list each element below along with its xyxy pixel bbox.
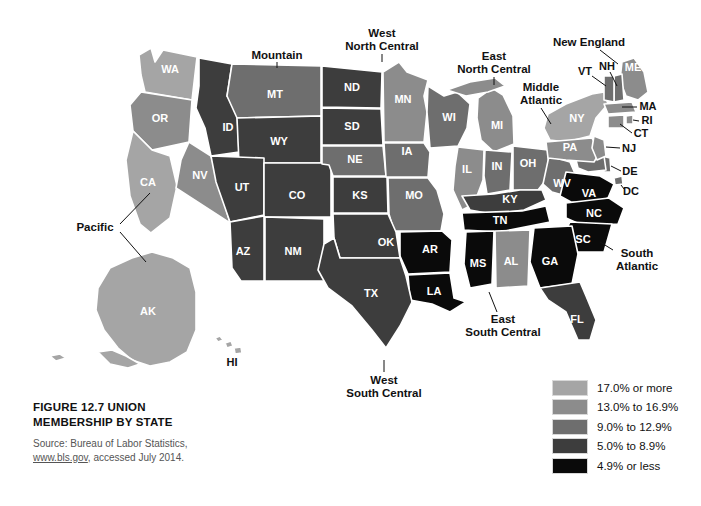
state-KS[interactable] <box>333 177 388 213</box>
state-HI-2 <box>225 341 233 348</box>
state-PA[interactable] <box>546 138 600 162</box>
region-label-midatl-line1: Middle <box>523 81 559 93</box>
state-MO[interactable] <box>388 178 444 231</box>
legend-swatch-3 <box>552 438 588 454</box>
region-label-enc-line1: East <box>482 50 506 62</box>
state-HI-3 <box>234 347 242 354</box>
state-LA[interactable] <box>408 273 466 312</box>
legend-label-4: 4.9% or less <box>597 460 660 472</box>
state-IA[interactable] <box>384 143 430 177</box>
legend-label-2: 9.0% to 12.9% <box>597 421 672 433</box>
legend-row-0[interactable]: 17.0% or more <box>552 378 694 398</box>
state-label-HI: HI <box>227 356 238 368</box>
region-label-esc-line2: South Central <box>465 326 540 338</box>
state-ND[interactable] <box>322 66 382 108</box>
state-WA[interactable] <box>139 48 197 100</box>
map-legend: 17.0% or more 13.0% to 16.9% 9.0% to 12.… <box>552 378 694 476</box>
region-label-wsc-line2: South Central <box>346 387 421 399</box>
figure-title-line2: MEMBERSHIP BY STATE <box>33 415 268 430</box>
state-DC[interactable] <box>614 176 623 185</box>
state-label-MA: MA <box>639 100 656 112</box>
source-url-link[interactable]: www.bls.gov <box>33 452 88 463</box>
state-AK-islands <box>50 354 66 361</box>
state-GA[interactable] <box>530 226 578 288</box>
region-label-esc-line1: East <box>491 313 515 325</box>
state-AL[interactable] <box>495 230 530 288</box>
state-HI[interactable] <box>215 336 223 342</box>
region-label-wnc-line1: West <box>368 27 395 39</box>
union-membership-map-figure: WA OR CA AK HI NV ID MT WY UT CO AZ NM N… <box>0 0 701 506</box>
region-label-southatl-line2: Atlantic <box>616 260 659 272</box>
legend-row-3[interactable]: 5.0% to 8.9% <box>552 437 694 457</box>
state-label-DC: DC <box>623 185 639 197</box>
state-MN[interactable] <box>383 62 428 142</box>
region-label-newengland-line1: New England <box>553 36 625 48</box>
state-NE[interactable] <box>322 146 386 176</box>
legend-row-4[interactable]: 4.9% or less <box>552 456 694 476</box>
state-RI[interactable] <box>626 115 633 124</box>
leader-RI <box>633 120 639 121</box>
legend-row-2[interactable]: 9.0% to 12.9% <box>552 417 694 437</box>
region-label-pacific-line1: Pacific <box>76 221 114 233</box>
region-label-wnc-line2: North Central <box>345 40 418 52</box>
state-label-DE: DE <box>622 165 637 177</box>
state-MT[interactable] <box>227 64 321 118</box>
state-label-VT: VT <box>578 65 592 77</box>
state-label-RI: RI <box>642 114 653 126</box>
state-label-CT: CT <box>634 127 649 139</box>
region-label-enc-line2: North Central <box>457 63 530 75</box>
state-SD[interactable] <box>322 108 383 145</box>
legend-label-3: 5.0% to 8.9% <box>597 440 665 452</box>
leader-NJ <box>606 147 620 148</box>
region-label-wsc-line1: West <box>370 374 397 386</box>
state-CT[interactable] <box>608 115 624 128</box>
figure-caption: FIGURE 12.7 UNION MEMBERSHIP BY STATE So… <box>33 400 268 464</box>
legend-label-1: 13.0% to 16.9% <box>597 401 678 413</box>
state-label-NJ: NJ <box>622 142 636 154</box>
region-label-southatl-line1: South <box>621 247 654 259</box>
state-CO[interactable] <box>264 163 331 217</box>
state-AK[interactable] <box>96 252 196 366</box>
legend-swatch-0 <box>552 380 588 396</box>
legend-swatch-2 <box>552 419 588 435</box>
source-line2-rest: , accessed July 2014. <box>88 452 184 463</box>
state-OK[interactable] <box>333 214 400 258</box>
leader-esc <box>489 292 497 312</box>
state-NH[interactable] <box>614 74 624 102</box>
state-MS[interactable] <box>464 231 494 288</box>
legend-swatch-1 <box>552 399 588 415</box>
region-label-midatl-line2: Atlantic <box>520 94 563 106</box>
state-AR[interactable] <box>400 231 452 274</box>
figure-source: Source: Bureau of Labor Statistics, www.… <box>33 437 268 464</box>
state-label-NH: NH <box>599 60 615 72</box>
region-label-mountain-line1: Mountain <box>251 49 302 61</box>
state-AZ[interactable] <box>230 216 264 281</box>
legend-label-0: 17.0% or more <box>597 382 672 394</box>
state-VT[interactable] <box>604 76 614 102</box>
state-IN[interactable] <box>484 150 512 194</box>
state-MA[interactable] <box>604 102 636 114</box>
leader-DE <box>611 166 621 171</box>
source-line1: Source: Bureau of Labor Statistics, <box>33 438 188 449</box>
figure-title-line1: FIGURE 12.7 UNION <box>33 400 268 415</box>
legend-row-1[interactable]: 13.0% to 16.9% <box>552 398 694 418</box>
state-WY[interactable] <box>237 116 321 163</box>
state-MI[interactable] <box>477 88 514 152</box>
legend-swatch-4 <box>552 458 588 474</box>
state-FL[interactable] <box>540 282 596 340</box>
state-NM[interactable] <box>265 217 324 281</box>
